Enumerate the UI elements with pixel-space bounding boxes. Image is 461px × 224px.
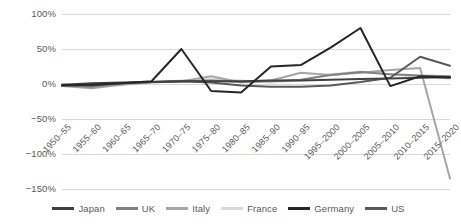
legend-swatch-icon [166, 207, 188, 210]
y-axis-tick-label: 100% [31, 8, 56, 19]
legend-item-label: UK [142, 203, 155, 214]
y-axis-tick-label: 50% [37, 43, 56, 54]
legend-swatch-icon [116, 207, 138, 210]
chart-legend: JapanUKItalyFranceGermanyUS [0, 198, 457, 218]
y-axis-tick-label: 0% [42, 78, 56, 89]
series-line-germany [62, 28, 450, 92]
legend-item-italy[interactable]: Italy [166, 203, 210, 214]
legend-item-label: France [247, 203, 277, 214]
y-axis-tick-label: −50% [31, 113, 56, 124]
legend-item-label: Japan [78, 203, 104, 214]
legend-swatch-icon [221, 207, 243, 210]
legend-item-us[interactable]: US [365, 203, 404, 214]
legend-swatch-icon [365, 207, 387, 210]
legend-item-uk[interactable]: UK [116, 203, 155, 214]
legend-item-france[interactable]: France [221, 203, 277, 214]
legend-swatch-icon [288, 207, 310, 210]
legend-item-label: Italy [192, 203, 210, 214]
legend-swatch-icon [52, 207, 74, 210]
legend-item-japan[interactable]: Japan [52, 203, 104, 214]
legend-item-germany[interactable]: Germany [288, 203, 354, 214]
legend-item-label: Germany [314, 203, 354, 214]
legend-item-label: US [391, 203, 404, 214]
